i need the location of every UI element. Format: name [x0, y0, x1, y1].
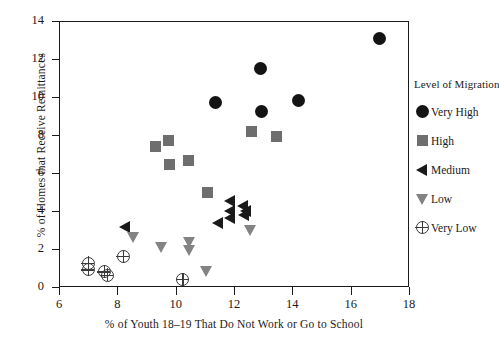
data-point-low [183, 245, 195, 256]
x-tick-label: 10 [156, 298, 196, 311]
y-tick [52, 249, 60, 250]
data-point-very-high [254, 62, 267, 75]
data-point-high [246, 126, 257, 137]
y-tick [52, 59, 60, 60]
legend-item-very-low[interactable]: Very Low [414, 220, 499, 235]
data-point-high [271, 131, 282, 142]
legend-label: Medium [431, 164, 470, 176]
legend-swatch-square-icon [414, 133, 431, 148]
legend-label: Very Low [431, 222, 477, 234]
data-point-very-high [255, 105, 268, 118]
y-tick [52, 135, 60, 136]
legend-label: Very High [431, 106, 479, 118]
x-tick [117, 287, 118, 295]
data-point-high [202, 187, 213, 198]
data-point-low [127, 232, 139, 243]
x-tick [351, 287, 352, 295]
x-tick-label: 12 [214, 298, 254, 311]
data-point-very-high [373, 32, 386, 45]
legend-swatch-cross-circle-icon [414, 220, 431, 235]
scatter-chart: 14121086420 681012141618 % of Homes that… [0, 0, 499, 352]
data-point-high [163, 135, 174, 146]
data-point-very-low [82, 263, 95, 276]
data-point-very-high [292, 94, 305, 107]
legend-marker-cross-circle-icon [416, 221, 429, 234]
data-point-high [183, 155, 194, 166]
y-axis-title: % of Homes that Receive Remittances [35, 25, 47, 265]
y-tick [52, 211, 60, 212]
data-point-medium [240, 205, 251, 217]
legend: Level of Migration Very HighHighMediumLo… [414, 78, 499, 235]
data-point-very-low [101, 269, 114, 282]
legend-swatch-triangle-left-icon [414, 162, 431, 177]
legend-title: Level of Migration [414, 78, 499, 90]
y-tick-label: 0 [14, 280, 44, 292]
legend-swatch-triangle-down-icon [414, 191, 431, 206]
x-tick [292, 287, 293, 295]
data-point-very-low [176, 273, 189, 286]
legend-item-medium[interactable]: Medium [414, 162, 499, 177]
plot-area [59, 21, 409, 287]
legend-marker-circle-icon [416, 105, 429, 118]
x-tick-label: 16 [331, 298, 371, 311]
legend-marker-triangle-down-icon [416, 194, 428, 205]
x-tick-label: 14 [272, 298, 312, 311]
legend-marker-triangle-left-icon [416, 164, 427, 176]
data-point-high [150, 141, 161, 152]
data-point-high [164, 159, 175, 170]
x-tick [409, 287, 410, 295]
data-point-low [244, 225, 256, 236]
y-tick [52, 21, 60, 22]
y-tick [52, 173, 60, 174]
legend-item-high[interactable]: High [414, 133, 499, 148]
x-tick-label: 6 [39, 298, 79, 311]
x-tick-label: 8 [97, 298, 137, 311]
x-tick [176, 287, 177, 295]
legend-swatch-circle-icon [414, 104, 431, 119]
x-tick [234, 287, 235, 295]
data-point-low [155, 242, 167, 253]
legend-items: Very HighHighMediumLowVery Low [414, 104, 499, 235]
legend-item-very-high[interactable]: Very High [414, 104, 499, 119]
data-point-medium [224, 212, 235, 224]
legend-label: Low [431, 193, 452, 205]
x-tick-label: 18 [389, 298, 429, 311]
legend-marker-square-icon [417, 135, 428, 146]
data-point-very-high [209, 96, 222, 109]
x-axis-title: % of Youth 18–19 That Do Not Work or Go … [59, 318, 409, 330]
y-tick [52, 97, 60, 98]
data-point-low [200, 266, 212, 277]
data-point-medium [212, 217, 223, 229]
data-point-very-low [117, 250, 130, 263]
x-tick [59, 287, 60, 295]
legend-label: High [431, 135, 454, 147]
legend-item-low[interactable]: Low [414, 191, 499, 206]
